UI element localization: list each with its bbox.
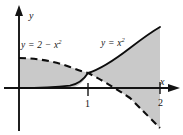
- x-tick-label-1: 1: [85, 99, 90, 109]
- x-tick-label-2: 2: [158, 98, 163, 108]
- x-axis-label: x: [160, 77, 164, 87]
- x-axis-arrowhead: [168, 84, 180, 92]
- curve-label-solid-exponent: 2: [122, 36, 125, 43]
- y-axis-label: y: [29, 11, 33, 21]
- math-figure: y = 2 − x2 y = x2 y x 1 2: [0, 0, 183, 135]
- curve-label-dashed: y = 2 − x2: [21, 39, 62, 51]
- curve-label-dashed-text: y = 2 − x: [21, 40, 58, 50]
- figure-canvas: [0, 0, 183, 135]
- curve-label-solid: y = x2: [101, 37, 125, 49]
- curve-label-dashed-exponent: 2: [58, 38, 61, 45]
- curve-label-solid-text: y = x: [101, 38, 122, 48]
- y-axis-arrowhead: [15, 5, 23, 16]
